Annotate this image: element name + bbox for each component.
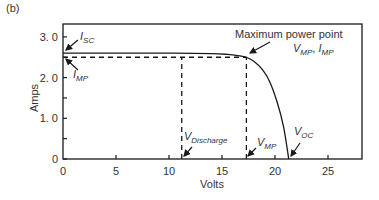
imp-annotation: IMP bbox=[66, 59, 89, 83]
x-tick-label: 0 bbox=[60, 165, 66, 177]
iv-curve-line bbox=[63, 53, 289, 159]
y-tick-label: 3. 0 bbox=[40, 31, 58, 43]
svg-text:IMP: IMP bbox=[73, 68, 89, 83]
x-tick-label: 10 bbox=[163, 165, 175, 177]
svg-text:Maximum power point: Maximum power point bbox=[235, 28, 343, 40]
x-axis-title: Volts bbox=[200, 178, 224, 190]
y-tick-label: 2. 0 bbox=[40, 72, 58, 84]
y-tick-label: 1. 0 bbox=[40, 112, 58, 124]
svg-text:VDischarge: VDischarge bbox=[184, 130, 228, 145]
panel-label: (b) bbox=[6, 2, 19, 14]
iv-curve-chart: (b) 01. 02. 03. 0 0510152025 Amps Volts … bbox=[0, 0, 379, 200]
svg-text:ISC: ISC bbox=[80, 30, 94, 45]
svg-text:VMP: VMP bbox=[257, 136, 277, 151]
x-tick-label: 20 bbox=[269, 165, 281, 177]
y-tick-label: 0 bbox=[52, 153, 58, 165]
svg-text:VOC: VOC bbox=[294, 125, 314, 140]
x-tick-label: 5 bbox=[113, 165, 119, 177]
vdischarge-annotation: VDischarge bbox=[184, 130, 228, 156]
x-tick-label: 25 bbox=[322, 165, 334, 177]
x-tick-label: 15 bbox=[216, 165, 228, 177]
y-axis-title: Amps bbox=[28, 83, 40, 112]
voc-annotation: VOC bbox=[291, 125, 314, 156]
x-axis-ticks: 0510152025 bbox=[60, 155, 334, 177]
mpp-annotation: Maximum power point VMP, IMP bbox=[235, 28, 343, 57]
vmp-annotation: VMP bbox=[248, 136, 277, 156]
svg-text:VMP, IMP: VMP, IMP bbox=[293, 42, 334, 57]
isc-annotation: ISC bbox=[66, 30, 94, 50]
